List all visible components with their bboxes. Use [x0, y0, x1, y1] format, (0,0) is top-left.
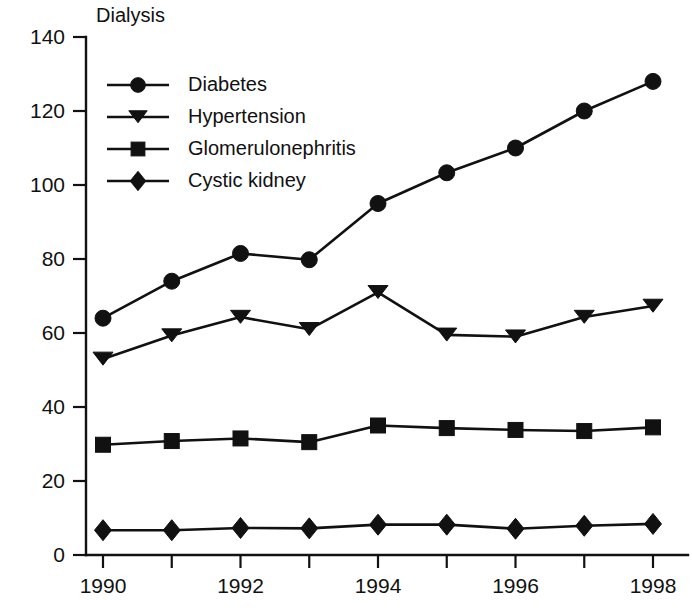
data-point-marker — [301, 518, 318, 539]
data-point-marker — [439, 421, 454, 436]
x-tick-label: 1994 — [355, 574, 402, 597]
legend-swatch-marker — [131, 78, 146, 93]
data-point-marker — [162, 329, 182, 342]
x-axis-ticks: 19901992199419961998 — [80, 555, 677, 597]
legend-swatch-marker — [130, 171, 146, 190]
legend-item-cystic-kidney[interactable]: Cystic kidney — [107, 169, 306, 191]
y-axis-ticks: 020406080100120140 — [30, 25, 86, 566]
y-tick-label: 140 — [30, 25, 65, 48]
data-point-marker — [93, 352, 113, 365]
series-hypertension — [93, 286, 663, 366]
data-point-marker — [233, 431, 248, 446]
data-point-marker — [439, 165, 455, 181]
dialysis-line-chart: Dialysis 020406080100120140 199019921994… — [0, 0, 692, 613]
y-tick-label: 80 — [42, 247, 65, 270]
data-point-marker — [508, 422, 523, 437]
chart-legend: DiabetesHypertensionGlomerulonephritisCy… — [107, 73, 356, 191]
series-glomerulonephritis — [96, 418, 661, 452]
chart-canvas: Dialysis 020406080100120140 199019921994… — [0, 0, 692, 613]
data-point-marker — [96, 437, 111, 452]
x-tick-label: 1990 — [80, 574, 127, 597]
data-point-marker — [233, 245, 249, 261]
legend-item-glomerulonephritis[interactable]: Glomerulonephritis — [107, 137, 356, 159]
series-layer — [93, 73, 663, 540]
data-point-marker — [438, 514, 455, 535]
data-point-marker — [371, 418, 386, 433]
x-tick-label: 1998 — [630, 574, 677, 597]
y-tick-label: 60 — [42, 321, 65, 344]
chart-title: Dialysis — [96, 4, 165, 26]
legend-label: Glomerulonephritis — [188, 137, 356, 159]
data-point-marker — [507, 518, 524, 539]
y-tick-label: 0 — [53, 543, 65, 566]
y-tick-label: 20 — [42, 469, 65, 492]
legend-item-hypertension[interactable]: Hypertension — [107, 105, 306, 127]
x-tick-label: 1996 — [492, 574, 539, 597]
data-point-marker — [370, 514, 387, 535]
data-point-marker — [231, 310, 251, 323]
x-tick-label: 1992 — [217, 574, 264, 597]
data-point-marker — [232, 517, 249, 538]
data-point-marker — [95, 520, 112, 541]
legend-item-diabetes[interactable]: Diabetes — [107, 73, 267, 95]
legend-label: Hypertension — [188, 105, 306, 127]
data-point-marker — [508, 140, 524, 156]
data-point-marker — [163, 520, 180, 541]
data-point-marker — [301, 252, 317, 268]
data-point-marker — [576, 515, 593, 536]
legend-label: Cystic kidney — [188, 169, 306, 191]
data-point-marker — [646, 420, 661, 435]
data-point-marker — [643, 299, 663, 312]
data-point-marker — [164, 434, 179, 449]
data-point-marker — [645, 513, 662, 534]
y-tick-label: 120 — [30, 99, 65, 122]
legend-swatch-marker — [131, 142, 145, 156]
y-tick-label: 100 — [30, 173, 65, 196]
data-point-marker — [576, 103, 592, 119]
series-cystic-kidney — [95, 513, 662, 540]
data-point-marker — [577, 424, 592, 439]
series-line — [103, 292, 653, 359]
y-tick-label: 40 — [42, 395, 65, 418]
data-point-marker — [302, 435, 317, 450]
data-point-marker — [645, 73, 661, 89]
data-point-marker — [370, 196, 386, 212]
data-point-marker — [164, 273, 180, 289]
legend-label: Diabetes — [188, 73, 267, 95]
data-point-marker — [95, 310, 111, 326]
